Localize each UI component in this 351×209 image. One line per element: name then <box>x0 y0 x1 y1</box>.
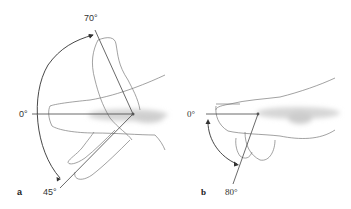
extension-line-a <box>95 30 133 114</box>
arrowhead-down-icon <box>234 162 239 167</box>
label-flexion-45: 45° <box>43 187 57 197</box>
arrowhead-up-icon <box>206 119 211 124</box>
arrowhead-down-icon <box>57 177 62 182</box>
panel-a: 70° 0° 45° a <box>17 13 168 197</box>
label-neutral-0-a: 0° <box>19 109 28 119</box>
hand-shading-a <box>88 109 168 123</box>
range-of-motion-figure: 70° 0° 45° a 0° 80° b <box>0 0 351 209</box>
pivot-point-b <box>257 113 260 116</box>
label-neutral-0-b: 0° <box>187 109 196 119</box>
panel-label-a: a <box>17 187 23 197</box>
pivot-point-a <box>132 113 135 116</box>
range-arc-b <box>208 122 237 164</box>
range-arc-a <box>37 35 93 178</box>
panel-label-b: b <box>201 187 206 197</box>
hand-outline-b <box>216 78 335 160</box>
hand-shading-b <box>256 107 340 124</box>
label-extension-70: 70° <box>84 13 98 23</box>
flexion-line-a <box>60 114 133 188</box>
label-flexion-80: 80° <box>225 187 238 197</box>
hand-outline-a <box>49 38 165 180</box>
panel-b: 0° 80° b <box>187 78 340 197</box>
